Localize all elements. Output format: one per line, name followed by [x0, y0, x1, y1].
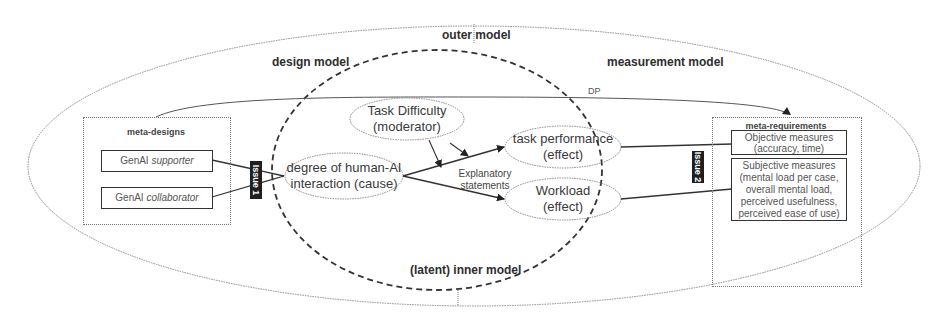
measurement-model-label: measurement model: [607, 55, 724, 69]
dp-label: DP: [588, 86, 601, 96]
dp-arrow: [156, 97, 787, 117]
design-model-label: design model: [272, 55, 349, 69]
workload-label: Workload (effect): [505, 183, 621, 215]
genai-supporter-box: GenAI supporter: [101, 150, 213, 172]
task-difficulty-label: Task Difficulty (moderator): [350, 103, 464, 135]
meta-designs-title: meta-designs: [83, 126, 229, 138]
genai-collaborator-box: GenAI collaborator: [101, 187, 213, 209]
task-performance-label: task performance (effect): [505, 131, 621, 163]
issue-2-badge: Issue 2: [692, 151, 704, 183]
explanatory-statements-label: Explanatory statements: [455, 168, 515, 192]
objective-measures-box: Objective measures (accuracy, time): [731, 130, 847, 155]
outer-model-label: outer model: [442, 28, 511, 42]
issue-1-badge: Issue 1: [250, 161, 262, 199]
inner-model-label: (latent) inner model: [410, 263, 521, 277]
cause-label: degree of human-AI interaction (cause): [285, 160, 403, 192]
subjective-measures-box: Subjective measures (mental load per cas…: [731, 158, 847, 221]
